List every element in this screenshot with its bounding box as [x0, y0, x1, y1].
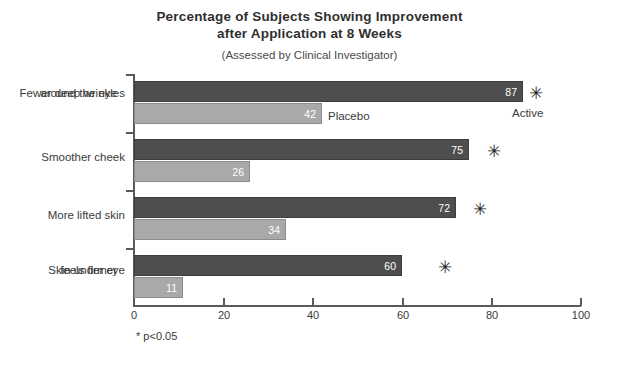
significance-asterisk: ✳ [473, 201, 487, 218]
bar-value-label: 60 [384, 260, 396, 271]
significance-footnote: * p<0.05 [136, 330, 177, 342]
bar-placebo: 42 [134, 103, 322, 124]
y-axis-tick [126, 190, 134, 192]
bar-value-label: 87 [505, 86, 517, 97]
series-annotation-placebo: Placebo [328, 110, 370, 122]
significance-asterisk: ✳ [487, 143, 501, 160]
x-axis-tick [402, 298, 404, 306]
bar-value-label: 42 [304, 108, 316, 119]
chart-plot-area: Fewer deep wrinkles around the eye 87 ✳ … [0, 0, 619, 371]
x-axis-tick [491, 298, 493, 306]
bar-value-label: 72 [438, 202, 450, 213]
x-axis-tick-label: 100 [572, 309, 590, 321]
category-label-group: Fewer deep wrinkles around the eye [0, 86, 133, 100]
x-axis-tick-label: 80 [486, 309, 498, 321]
significance-asterisk: ✳ [438, 259, 452, 276]
bar-value-label: 34 [268, 224, 280, 235]
bar-active: 75 [134, 139, 469, 160]
x-axis-tick-label: 20 [218, 309, 230, 321]
x-axis-tick [580, 298, 582, 306]
series-annotation-active: Active [512, 107, 543, 119]
bar-value-label: 75 [451, 144, 463, 155]
x-axis-tick-label: 60 [397, 309, 409, 321]
bar-value-label: 11 [166, 282, 177, 293]
bar-active: 87 [134, 81, 523, 102]
y-axis-tick [126, 132, 134, 134]
x-axis-tick [223, 298, 225, 306]
category-label-group: Skin under eye feels firmer [0, 263, 133, 277]
category-label-line: around the eye [0, 86, 125, 100]
bar-placebo: 11 [134, 277, 183, 298]
x-axis-tick [133, 298, 135, 306]
significance-asterisk: ✳ [529, 85, 543, 102]
bar-active: 60 [134, 255, 402, 276]
bar-placebo: 34 [134, 219, 286, 240]
bar-active: 72 [134, 197, 456, 218]
bar-placebo: 26 [134, 161, 250, 182]
x-axis-tick [312, 298, 314, 306]
category-label-line: More lifted skin [8, 208, 133, 222]
y-axis-tick [126, 248, 134, 250]
x-axis-tick-label: 0 [131, 309, 137, 321]
y-axis-tick [126, 74, 134, 76]
category-label-line: Smoother cheek [8, 150, 133, 164]
category-label-line: feels firmer [0, 263, 125, 277]
bar-value-label: 26 [232, 166, 244, 177]
x-axis-tick-label: 40 [307, 309, 319, 321]
x-axis-line [133, 305, 581, 307]
